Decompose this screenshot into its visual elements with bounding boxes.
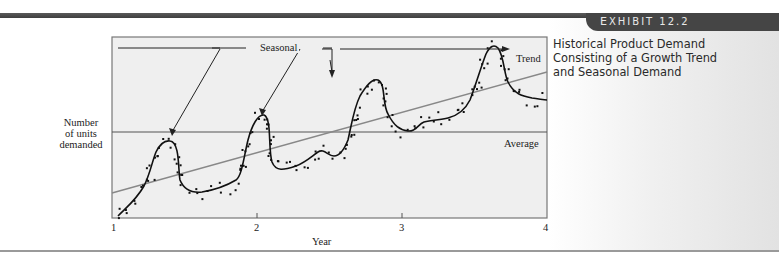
average-label: Average [504,138,539,149]
x-tick-2: 2 [254,222,259,233]
x-tick-1: 1 [111,222,116,233]
chart-plot [0,0,779,255]
x-axis-label: Year [312,236,331,247]
x-tick-4: 4 [543,222,548,233]
seasonal-label: Seasonal [258,42,299,53]
bottom-rule [0,250,779,252]
ylabel-line-3: demanded [48,139,114,150]
x-tick-3: 3 [399,222,404,233]
y-axis-label: Number of units demanded [48,117,114,150]
trend-label: Trend [516,53,541,64]
ylabel-line-1: Number [48,117,114,128]
ylabel-line-2: of units [48,128,114,139]
